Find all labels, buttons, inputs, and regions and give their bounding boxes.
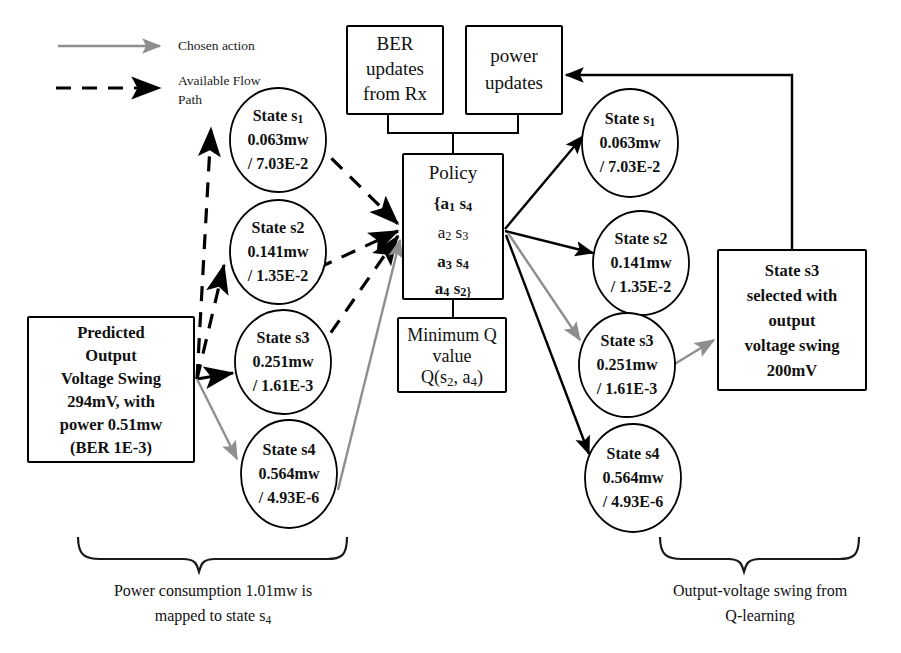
right-state-4-circle[interactable] bbox=[585, 424, 681, 532]
action-policy-to-rstate1 bbox=[505, 136, 583, 229]
predicted-input-box[interactable] bbox=[28, 317, 194, 462]
action-input-to-state4 bbox=[197, 379, 237, 459]
legend-label-available-flow-2: Path bbox=[178, 92, 202, 107]
left-state-1-circle[interactable] bbox=[230, 88, 326, 192]
diagram-canvas: Chosen action Available Flow Path BER up… bbox=[0, 0, 901, 653]
left-state-3-circle[interactable] bbox=[235, 310, 331, 414]
left-state-2-circle[interactable] bbox=[230, 200, 326, 304]
policy-to-right-states-arrows bbox=[505, 136, 593, 454]
updates-merge-connector bbox=[388, 114, 518, 133]
left-state-group bbox=[230, 88, 337, 528]
legend bbox=[56, 46, 160, 88]
left-states-to-policy-arrows bbox=[313, 140, 400, 490]
action-policy-to-rstate3 bbox=[508, 233, 580, 340]
input-to-left-states-arrows bbox=[197, 128, 237, 459]
result-box[interactable] bbox=[718, 250, 866, 390]
right-state-1-circle[interactable] bbox=[582, 89, 678, 197]
right-state-3-circle[interactable] bbox=[579, 313, 675, 417]
right-state-2-circle[interactable] bbox=[593, 211, 689, 315]
ber-updates-box[interactable] bbox=[347, 26, 443, 114]
right-brace bbox=[660, 537, 859, 572]
flow-input-to-state1 bbox=[197, 128, 211, 379]
minimum-q-box[interactable] bbox=[398, 318, 506, 392]
flow-state2-to-policy bbox=[318, 231, 398, 268]
flow-input-to-state3 bbox=[197, 373, 233, 379]
action-state4-to-policy bbox=[338, 240, 400, 490]
policy-box[interactable] bbox=[403, 154, 503, 299]
diagram-svg: Chosen action Available Flow Path bbox=[0, 0, 901, 653]
action-policy-to-rstate4 bbox=[506, 235, 589, 454]
legend-label-chosen-action: Chosen action bbox=[178, 38, 255, 53]
power-updates-box[interactable] bbox=[466, 26, 562, 114]
action-rstate3-to-result bbox=[673, 340, 714, 365]
legend-label-available-flow: Available Flow bbox=[178, 73, 261, 88]
flow-state1-to-policy bbox=[313, 140, 398, 224]
left-brace bbox=[78, 537, 347, 572]
right-state-group bbox=[579, 89, 689, 532]
left-state-4-circle[interactable] bbox=[241, 420, 337, 528]
